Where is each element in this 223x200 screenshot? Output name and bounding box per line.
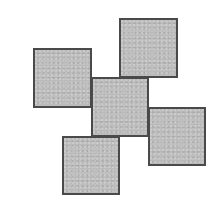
square-bottom: [62, 136, 120, 195]
square-center: [91, 77, 149, 137]
square-right: [148, 107, 206, 166]
square-top-left: [33, 48, 92, 108]
square-top-right: [119, 18, 178, 78]
diagram-canvas: [0, 0, 223, 200]
